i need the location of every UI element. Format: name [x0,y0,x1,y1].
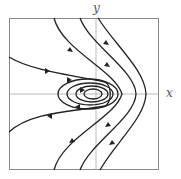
trajectory [9,57,110,132]
arrow-icon [75,104,80,110]
y-axis-label: y [93,1,100,15]
arrow-icon [103,40,109,45]
direction-arrows [45,40,115,145]
arrow-icon [45,68,50,74]
arrow-icon [109,140,115,145]
arrow-icon [105,122,111,127]
phase-portrait-plot [0,0,181,179]
x-axis-label: x [166,86,173,100]
arrow-icon [67,47,73,52]
arrow-icon [104,62,110,67]
